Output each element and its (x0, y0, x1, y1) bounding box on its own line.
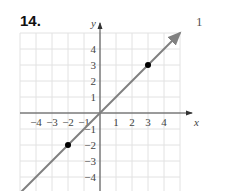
y-tick-label: 3 (91, 59, 97, 71)
x-tick-label: 3 (145, 116, 151, 128)
y-tick-label: −3 (84, 155, 96, 167)
x-tick-label: 2 (129, 116, 135, 128)
y-axis-label: y (90, 17, 96, 29)
y-tick-label: −1 (84, 123, 96, 135)
x-tick-label: 4 (161, 116, 167, 128)
x-axis-label: x (193, 116, 199, 128)
x-tick-label: 1 (113, 116, 119, 128)
x-tick-label: −4 (30, 116, 42, 128)
y-tick-label: −2 (84, 139, 96, 151)
y-tick-label: 1 (91, 91, 97, 103)
data-point (65, 142, 71, 148)
coordinate-plane: xy−4−3−2−112344321−1−2−3−4 (0, 0, 230, 191)
data-point (145, 62, 151, 68)
y-tick-label: 2 (91, 75, 97, 87)
y-tick-label: −4 (84, 171, 96, 183)
y-tick-label: 4 (91, 43, 97, 55)
x-tick-label: −2 (62, 116, 74, 128)
x-tick-label: −3 (46, 116, 58, 128)
